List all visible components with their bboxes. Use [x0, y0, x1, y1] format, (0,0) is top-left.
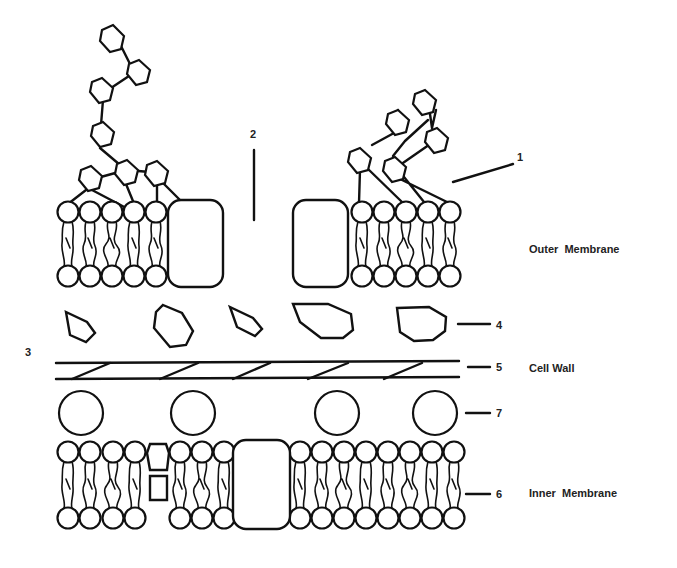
outer-membrane-bilayer-right	[352, 202, 461, 287]
lipoproteins	[59, 391, 457, 435]
porin-right	[293, 200, 348, 287]
inner-membrane-bilayer-left	[58, 442, 235, 529]
callout-number: 1	[517, 151, 523, 163]
callout-lipopolysaccharide: 1	[453, 151, 523, 182]
callout-peptidoglycan: 5	[468, 361, 502, 373]
lipopolysaccharide-right	[348, 90, 448, 203]
callout-number: 2	[250, 128, 256, 140]
callout-lipoprotein: 7	[466, 407, 502, 419]
peptidoglycan-layer	[56, 361, 459, 379]
callout-number: 7	[496, 407, 502, 419]
callout-phospholipid-bilayer: 6	[466, 488, 502, 500]
callout-number: 6	[496, 488, 502, 500]
lipopolysaccharide-left	[68, 25, 180, 210]
callout-porin-channel: 2	[250, 128, 256, 220]
callout-number: 3	[25, 346, 31, 358]
callout-periplasmic-space: 3	[25, 346, 31, 358]
inner-membrane-small-protein	[147, 444, 169, 500]
label-cell-wall: Cell Wall	[529, 362, 574, 374]
label-inner-membrane: Inner Membrane	[529, 487, 617, 499]
inner-membrane-bilayer-right	[290, 442, 465, 529]
cell-envelope-diagram: 1234567 Outer MembraneCell WallInner Mem…	[0, 0, 677, 568]
inner-membrane-protein	[233, 440, 290, 529]
callout-number: 4	[496, 319, 503, 331]
callout-number: 5	[496, 361, 502, 373]
callout-periplasmic-protein: 4	[458, 319, 503, 331]
outer-membrane-bilayer-left	[58, 202, 167, 287]
porin-left	[168, 200, 223, 287]
periplasmic-proteins	[66, 304, 446, 347]
label-outer-membrane: Outer Membrane	[529, 243, 619, 255]
region-labels: Outer MembraneCell WallInner Membrane	[529, 243, 619, 499]
